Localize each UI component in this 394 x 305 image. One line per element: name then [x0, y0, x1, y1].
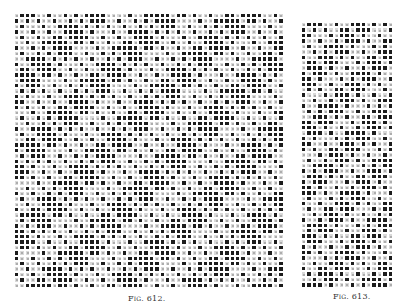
caption-number: 612. — [147, 294, 166, 303]
figure-caption-613: Fig. 613. — [333, 292, 370, 301]
figure-caption-612: Fig. 612. — [128, 294, 165, 303]
weave-grid-fig-612 — [14, 13, 284, 288]
filled-cell — [278, 283, 283, 288]
caption-number: 613. — [352, 292, 371, 301]
weave-grid-fig-613 — [301, 22, 393, 288]
empty-cell — [388, 282, 393, 287]
caption-prefix: Fig. — [128, 294, 144, 303]
caption-prefix: Fig. — [333, 292, 349, 301]
